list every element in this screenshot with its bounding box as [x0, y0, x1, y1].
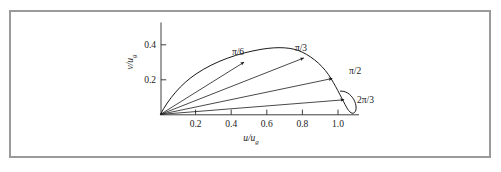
y-tick-label-0.4: 0.4	[144, 40, 156, 50]
x-axis-title: u/ug	[243, 133, 259, 146]
hodograph-curve	[160, 48, 356, 115]
plot-canvas: 0.4 0.2 0.2 0.4 0.6 0.8 1.0 u/ug v/ug	[0, 0, 501, 172]
y-axis-title: v/ug	[125, 54, 138, 70]
x-tick-label-0.8: 0.8	[296, 119, 308, 129]
x-axis-title-main: u/u	[243, 133, 255, 143]
y-tick-label-0.2: 0.2	[144, 75, 156, 85]
y-axis-title-sub: g	[130, 54, 138, 58]
hodograph-plot: 0.4 0.2 0.2 0.4 0.6 0.8 1.0 u/ug v/ug	[0, 0, 501, 172]
ray-group	[160, 58, 344, 114]
label-pi-over-2: π/2	[349, 66, 361, 76]
x-tick-label-0.2: 0.2	[190, 119, 202, 129]
label-pi-over-3: π/3	[295, 43, 307, 53]
screenshot-root: 0.4 0.2 0.2 0.4 0.6 0.8 1.0 u/ug v/ug	[0, 0, 501, 172]
x-axis-title-sub: g	[255, 138, 259, 146]
x-tick-label-1.0: 1.0	[332, 119, 344, 129]
label-two-pi-over-3: 2π/3	[357, 95, 374, 105]
ray-pi-over-3	[160, 58, 303, 114]
x-tick-label-0.4: 0.4	[225, 119, 237, 129]
x-tick-label-0.6: 0.6	[261, 119, 273, 129]
axis-y	[161, 23, 166, 115]
ray-two-pi-over-3	[160, 100, 344, 115]
ray-pi-over-2	[160, 79, 332, 115]
y-axis-title-main: v/u	[125, 58, 135, 70]
label-pi-over-6: π/6	[232, 47, 244, 57]
